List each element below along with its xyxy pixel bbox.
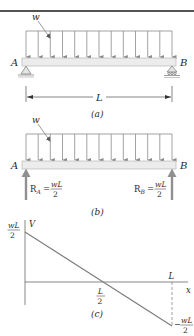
end-label-b: B <box>179 160 187 171</box>
reaction-arrow-b-icon <box>168 169 177 201</box>
svg-text:2: 2 <box>53 190 58 199</box>
svg-text:L: L <box>97 287 103 296</box>
svg-text:−: − <box>174 320 181 329</box>
beam <box>22 161 176 169</box>
svg-text:2: 2 <box>157 190 162 199</box>
svg-text:=: = <box>147 184 154 194</box>
min-value-label: − wL 2 <box>174 316 193 335</box>
end-label-b: B <box>179 57 187 68</box>
pin-support-icon <box>18 66 34 77</box>
svg-text:2: 2 <box>183 326 188 335</box>
panel-c-shear-plot: V x wL 2 L 2 L − wL 2 (c) <box>8 219 194 335</box>
panel-b: w A B R <box>10 115 187 217</box>
end-label-a: A <box>10 160 18 171</box>
svg-text:wL: wL <box>155 180 166 189</box>
svg-text:B: B <box>140 188 146 195</box>
svg-text:2: 2 <box>98 297 103 306</box>
load-label-w: w <box>32 115 40 125</box>
svg-text:2: 2 <box>10 231 15 240</box>
beam <box>22 58 176 66</box>
svg-text:wL: wL <box>8 221 19 230</box>
svg-text:A: A <box>36 188 42 195</box>
caption-b: (b) <box>91 207 104 217</box>
midpoint-label: L 2 <box>97 287 106 306</box>
reaction-label-b: R B = wL 2 <box>134 180 166 199</box>
panel-a: w A B <box>10 12 187 119</box>
v-axis-label: V <box>29 219 36 229</box>
max-value-label: wL 2 <box>8 221 21 240</box>
load-leader <box>38 21 50 38</box>
shear-diagram-figure: w A B <box>0 0 194 336</box>
reaction-label-a: R A = wL 2 <box>30 180 62 199</box>
load-leader <box>38 124 50 141</box>
roller-support-icon <box>164 66 180 78</box>
end-label-l: L <box>168 271 175 281</box>
caption-c: (c) <box>91 309 104 319</box>
svg-text:wL: wL <box>181 316 192 325</box>
svg-text:wL: wL <box>51 180 62 189</box>
caption-a: (a) <box>91 109 104 119</box>
svg-text:=: = <box>43 184 50 194</box>
end-label-a: A <box>10 57 18 68</box>
load-label-w: w <box>32 12 40 22</box>
x-axis-label: x <box>186 285 191 295</box>
span-label-l: L <box>95 92 103 103</box>
